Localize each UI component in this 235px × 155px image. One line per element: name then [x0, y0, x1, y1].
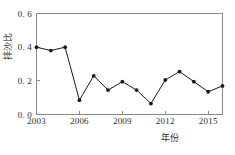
y-axis-ticks [37, 14, 41, 115]
data-point-marker [163, 78, 167, 82]
data-point-marker [78, 98, 82, 102]
chart-figure: 20032006200920122015 0. 00. 20. 40. 6 排沙… [0, 0, 235, 155]
data-point-marker [92, 74, 96, 78]
data-point-marker [149, 102, 153, 106]
data-point-marker [63, 45, 67, 49]
data-point-marker [192, 80, 196, 84]
y-tick-label: 0. 0 [0, 110, 32, 120]
data-point-marker [206, 90, 210, 94]
x-axis-ticks [37, 111, 209, 115]
x-tick-label: 2015 [199, 116, 218, 126]
data-point-marker [135, 88, 139, 92]
axis-frame-path [37, 14, 223, 115]
y-tick-label: 0. 2 [0, 76, 32, 86]
x-axis-title: 年份 [0, 131, 235, 144]
data-series-line [37, 47, 223, 103]
data-point-marker [178, 70, 182, 74]
axes-frame [37, 14, 223, 115]
data-point-marker [120, 80, 124, 84]
x-tick-label: 2006 [70, 116, 89, 126]
data-point-marker [106, 88, 110, 92]
data-point-marker [49, 49, 53, 53]
data-series-markers [35, 45, 225, 105]
data-point-marker [221, 84, 225, 88]
x-tick-label: 2009 [113, 116, 132, 126]
y-axis-title: 排沙比 [1, 23, 14, 71]
data-point-marker [35, 45, 39, 49]
x-tick-label: 2012 [156, 116, 175, 126]
y-tick-label: 0. 6 [0, 9, 32, 19]
